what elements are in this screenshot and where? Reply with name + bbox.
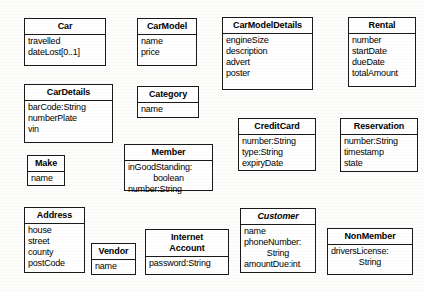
uml-attribute: engineSize — [226, 35, 309, 46]
uml-class-name: NonMember — [328, 229, 412, 245]
uml-class-name: Customer — [241, 209, 315, 225]
uml-attribute-compartment: number:Stringtype:StringexpiryDate — [239, 135, 315, 171]
uml-attribute: boolean — [128, 173, 209, 184]
uml-attribute: String — [244, 248, 312, 259]
uml-class-box[interactable]: Categoryname — [137, 86, 199, 118]
uml-attribute: poster — [226, 68, 309, 79]
uml-attribute: expiryDate — [242, 158, 312, 169]
uml-attribute: dateLost[0..1] — [28, 47, 102, 58]
uml-attribute: name — [95, 261, 132, 272]
uml-attribute-compartment: barCode:StringnumberPlatevin — [25, 101, 112, 137]
uml-attribute: number:String — [128, 184, 209, 195]
uml-attribute: numberPlate — [28, 113, 109, 124]
uml-attribute: name — [31, 173, 61, 184]
uml-class-box[interactable]: Vendorname — [91, 243, 136, 275]
uml-class-box[interactable]: AddresshousestreetcountypostCode — [24, 207, 85, 273]
uml-attribute-compartment: namephoneNumber:StringamountDue:int — [241, 225, 315, 272]
uml-attribute: county — [28, 247, 81, 258]
uml-attribute-compartment: number:Stringtimestampstate — [341, 135, 417, 171]
uml-attribute: amountDue:int — [244, 259, 312, 270]
uml-class-box[interactable]: CarDetailsbarCode:StringnumberPlatevin — [24, 84, 113, 143]
uml-attribute: inGoodStanding: — [128, 162, 209, 173]
uml-attribute: phoneNumber: — [244, 237, 312, 248]
uml-attribute: number:String — [242, 136, 312, 147]
uml-attribute-compartment: numberstartDatedueDatetotalAmount — [349, 34, 415, 81]
uml-class-box[interactable]: CarModelDetailsengineSizedescriptionadve… — [222, 17, 313, 90]
uml-attribute: type:String — [242, 147, 312, 158]
uml-attribute-compartment: housestreetcountypostCode — [25, 224, 84, 271]
uml-attribute-compartment: password:String — [146, 257, 228, 271]
uml-attribute: price — [141, 47, 193, 58]
uml-class-name: Rental — [349, 18, 415, 34]
uml-attribute: name — [244, 226, 312, 237]
uml-class-name: Category — [138, 87, 198, 103]
uml-attribute: name — [141, 104, 195, 115]
uml-attribute: state — [344, 158, 414, 169]
uml-class-box[interactable]: Internet Accountpassword:String — [145, 229, 229, 275]
uml-attribute: totalAmount — [352, 68, 412, 79]
uml-class-box[interactable]: CustomernamephoneNumber:StringamountDue:… — [240, 208, 316, 273]
uml-class-name: Address — [25, 208, 84, 224]
uml-class-name: CreditCard — [239, 119, 315, 135]
uml-attribute: number — [352, 35, 412, 46]
uml-attribute: barCode:String — [28, 102, 109, 113]
uml-attribute: password:String — [149, 258, 225, 269]
uml-attribute: street — [28, 236, 81, 247]
uml-class-name: Reservation — [341, 119, 417, 135]
uml-class-diagram-canvas: CartravelleddateLost[0..1]CarModelnamepr… — [0, 0, 424, 291]
uml-class-name: Car — [25, 19, 105, 35]
uml-class-name: Member — [125, 145, 212, 161]
uml-attribute: name — [141, 36, 193, 47]
uml-attribute-compartment: engineSizedescriptionadvertposter — [223, 34, 312, 81]
uml-attribute: dueDate — [352, 57, 412, 68]
uml-class-name: Make — [28, 156, 64, 172]
uml-attribute-compartment: name — [138, 103, 198, 117]
uml-class-name: CarModelDetails — [223, 18, 312, 34]
uml-attribute-compartment: name — [28, 172, 64, 186]
uml-attribute: description — [226, 46, 309, 57]
uml-attribute: startDate — [352, 46, 412, 57]
uml-class-name: Vendor — [92, 244, 135, 260]
uml-attribute-compartment: nameprice — [138, 35, 196, 60]
uml-class-box[interactable]: MemberinGoodStanding:booleannumber:Strin… — [124, 144, 213, 191]
uml-attribute-compartment: driversLicense:String — [328, 245, 412, 270]
uml-class-box[interactable]: CarModelnameprice — [137, 18, 197, 66]
uml-attribute: number:String — [344, 136, 414, 147]
uml-attribute-compartment: name — [92, 260, 135, 274]
uml-class-name: CarDetails — [25, 85, 112, 101]
uml-attribute: travelled — [28, 36, 102, 47]
uml-attribute: postCode — [28, 258, 81, 269]
uml-class-box[interactable]: NonMemberdriversLicense:String — [327, 228, 413, 275]
uml-attribute: driversLicense: — [331, 246, 409, 257]
uml-class-name: Internet Account — [146, 230, 228, 257]
uml-attribute: timestamp — [344, 147, 414, 158]
uml-attribute: house — [28, 225, 81, 236]
uml-attribute: String — [331, 257, 409, 268]
uml-attribute: vin — [28, 124, 109, 135]
uml-attribute-compartment: travelleddateLost[0..1] — [25, 35, 105, 60]
uml-class-box[interactable]: CartravelleddateLost[0..1] — [24, 18, 106, 66]
uml-class-box[interactable]: RentalnumberstartDatedueDatetotalAmount — [348, 17, 416, 87]
uml-class-box[interactable]: Makename — [27, 155, 65, 186]
uml-attribute-compartment: inGoodStanding:booleannumber:String — [125, 161, 212, 197]
uml-class-name: CarModel — [138, 19, 196, 35]
uml-class-box[interactable]: Reservationnumber:Stringtimestampstate — [340, 118, 418, 172]
uml-class-box[interactable]: CreditCardnumber:Stringtype:Stringexpiry… — [238, 118, 316, 171]
uml-attribute: advert — [226, 57, 309, 68]
